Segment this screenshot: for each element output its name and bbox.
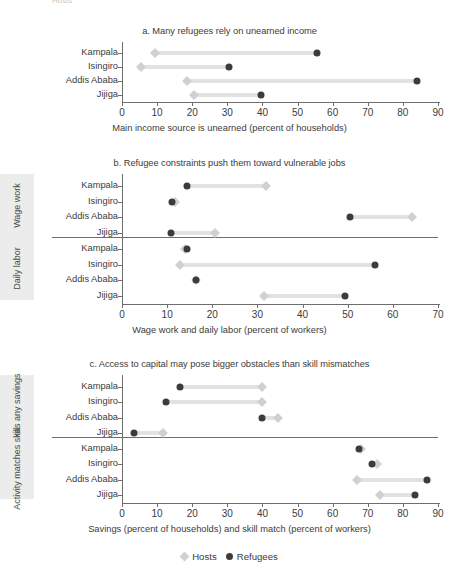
- x-tick-label: 20: [187, 107, 198, 118]
- panel-a: a. Many refugees rely on unearned income…: [0, 26, 459, 133]
- y-tick: [118, 217, 122, 218]
- x-tick: [192, 102, 193, 106]
- panel-c: c. Access to capital may pose bigger obs…: [0, 359, 459, 534]
- x-tick: [333, 102, 334, 106]
- panel-c-plot: 0102030405060708090Has any savingsActivi…: [0, 373, 459, 519]
- panel-c-title: c. Access to capital may pose bigger obs…: [0, 359, 459, 369]
- host-marker: [136, 62, 146, 72]
- y-axis-line: [122, 174, 123, 304]
- x-tick: [122, 304, 123, 308]
- y-tick: [118, 449, 122, 450]
- category-label: Addis Ababa: [66, 475, 118, 484]
- legend-label-hosts: Hosts: [192, 551, 217, 562]
- panel-a-plot: 0102030405060708090KampalaIsingiroAddis …: [0, 40, 459, 118]
- host-marker: [257, 397, 267, 407]
- refugee-marker: [313, 50, 320, 57]
- group-label: Activity matches skill: [12, 427, 23, 510]
- refugee-marker: [131, 430, 138, 437]
- x-tick-label: 90: [432, 508, 443, 519]
- x-tick-label: 0: [119, 107, 125, 118]
- plot-area-panel-a: 0102030405060708090KampalaIsingiroAddis …: [0, 40, 459, 118]
- connector-line: [180, 263, 375, 267]
- refugee-marker: [257, 92, 264, 99]
- y-tick: [118, 296, 122, 297]
- group-label: Wage work: [12, 183, 23, 228]
- y-axis-line: [122, 375, 123, 503]
- x-tick-label: 60: [327, 508, 338, 519]
- group-band-1: Wage work: [0, 174, 34, 237]
- refugee-marker: [226, 64, 233, 71]
- connector-line: [187, 79, 417, 83]
- refugee-marker: [356, 445, 363, 452]
- x-tick: [192, 503, 193, 507]
- x-tick: [212, 304, 213, 308]
- plot-area-panel-b: 010203040506070Wage workDaily laborKampa…: [0, 172, 459, 320]
- x-tick: [368, 102, 369, 106]
- x-tick-label: 20: [207, 309, 218, 320]
- legend: Hosts Refugees: [0, 551, 459, 562]
- panel-a-title: a. Many refugees rely on unearned income: [0, 26, 459, 36]
- category-label: Isingiro: [88, 62, 118, 71]
- circle-marker-icon: [226, 553, 233, 560]
- panel-a-xlabel: Main income source is unearned (percent …: [0, 123, 459, 133]
- category-label: Isingiro: [88, 260, 118, 269]
- group-label: Daily labor: [12, 247, 23, 290]
- refugee-marker: [168, 198, 175, 205]
- connector-line: [166, 400, 263, 404]
- x-tick: [403, 102, 404, 106]
- x-tick: [438, 102, 439, 106]
- y-tick: [118, 81, 122, 82]
- refugee-marker: [369, 461, 376, 468]
- panel-b-plot: 010203040506070Wage workDaily laborKampa…: [0, 172, 459, 320]
- panel-b-title: b. Refugee constraints push them toward …: [0, 158, 459, 168]
- legend-label-refugees: Refugees: [237, 551, 278, 562]
- x-tick: [438, 304, 439, 308]
- refugee-marker: [346, 214, 353, 221]
- x-tick-label: 50: [292, 107, 303, 118]
- category-label: Addis Ababa: [66, 212, 118, 221]
- refugee-marker: [183, 245, 190, 252]
- x-tick-label: 20: [187, 508, 198, 519]
- connector-line: [180, 385, 262, 389]
- connector-line: [155, 51, 317, 55]
- category-label: Jijiga: [97, 228, 118, 237]
- x-tick-label: 80: [397, 107, 408, 118]
- host-marker: [175, 260, 185, 270]
- connector-line: [171, 231, 215, 235]
- connector-line: [141, 65, 229, 69]
- x-tick: [403, 503, 404, 507]
- x-tick: [257, 304, 258, 308]
- y-axis-line: [122, 42, 123, 102]
- host-marker: [375, 490, 385, 500]
- category-label: Jijiga: [97, 291, 118, 300]
- x-tick-label: 70: [362, 508, 373, 519]
- y-tick: [118, 67, 122, 68]
- x-tick-label: 40: [257, 508, 268, 519]
- x-tick-label: 40: [297, 309, 308, 320]
- x-tick-label: 10: [152, 508, 163, 519]
- y-tick: [118, 480, 122, 481]
- x-tick-label: 0: [119, 508, 125, 519]
- y-tick: [118, 387, 122, 388]
- host-marker: [407, 212, 417, 222]
- x-tick-label: 60: [327, 107, 338, 118]
- y-tick: [118, 464, 122, 465]
- host-marker: [259, 291, 269, 301]
- y-tick: [118, 402, 122, 403]
- host-marker: [262, 181, 272, 191]
- category-label: Addis Ababa: [66, 275, 118, 284]
- host-marker: [257, 382, 267, 392]
- y-tick: [118, 265, 122, 266]
- x-tick-label: 80: [397, 508, 408, 519]
- x-tick-label: 70: [362, 107, 373, 118]
- connector-line: [380, 493, 415, 497]
- y-tick: [118, 495, 122, 496]
- x-tick: [348, 304, 349, 308]
- category-label: Jijiga: [97, 428, 118, 437]
- category-label: Isingiro: [88, 459, 118, 468]
- category-label: Isingiro: [88, 397, 118, 406]
- refugee-marker: [341, 293, 348, 300]
- connector-line: [264, 294, 344, 298]
- y-tick: [118, 233, 122, 234]
- refugee-marker: [259, 414, 266, 421]
